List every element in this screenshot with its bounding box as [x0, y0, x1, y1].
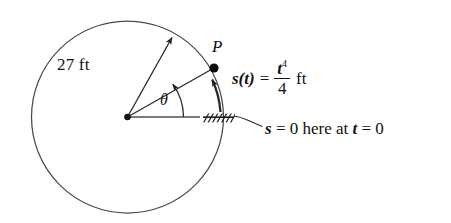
- fraction-numerator: t4: [274, 60, 290, 78]
- numerator-exponent: 4: [282, 58, 287, 69]
- point-p-label: P: [212, 38, 222, 55]
- circular-motion-figure: 27 ft P θ s(t) = t4 4 ft s = 0 here at t…: [0, 0, 451, 223]
- datum-note-end: = 0: [357, 119, 384, 138]
- center-dot: [124, 114, 131, 121]
- arc-direction-arrow: [212, 80, 220, 113]
- equals-sign: =: [259, 70, 271, 87]
- datum-note: s = 0 here at t = 0: [265, 120, 384, 137]
- theta-arc: [173, 84, 184, 117]
- datum-note-s: s: [265, 119, 272, 138]
- arclength-equation: s(t) = t4 4 ft: [232, 60, 306, 97]
- datum-hatch-mark: [203, 113, 236, 123]
- particle-point-p: [209, 63, 218, 72]
- datum-leader-line: [235, 116, 263, 126]
- datum-note-middle: = 0 here at: [272, 119, 353, 138]
- arclength-function-label: s(t): [232, 70, 255, 87]
- arclength-fraction: t4 4: [274, 60, 290, 97]
- fraction-denominator: 4: [275, 79, 290, 97]
- arclength-units: ft: [296, 70, 306, 87]
- theta-angle-label: θ: [160, 92, 168, 108]
- radius-label: 27 ft: [57, 56, 90, 73]
- diagram-canvas: [0, 0, 451, 223]
